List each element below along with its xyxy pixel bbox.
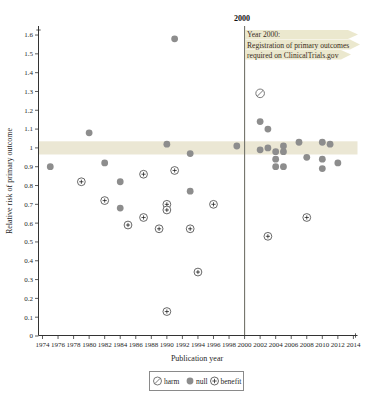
reference-band	[39, 141, 358, 154]
data-point-null	[265, 145, 272, 152]
data-point-null	[257, 146, 264, 153]
benefit-center-dot	[143, 174, 144, 175]
y-tick-label: 0.2	[24, 295, 33, 303]
data-point-null	[280, 148, 287, 155]
x-tick-label: 1974	[36, 341, 51, 349]
legend-null-label: null	[196, 377, 208, 386]
data-point-null	[171, 35, 178, 42]
data-point-null	[272, 163, 279, 170]
data-point-null	[233, 143, 240, 150]
annotation-line-1: Year 2000:	[247, 30, 280, 39]
data-point-null	[334, 160, 341, 167]
x-tick-label: 1990	[160, 341, 175, 349]
benefit-center-dot	[190, 228, 191, 229]
x-tick-label: 1980	[82, 341, 97, 349]
x-tick-label: 2008	[300, 341, 315, 349]
data-point-null	[272, 148, 279, 155]
legend-benefit-label: benefit	[221, 377, 243, 386]
data-point-null	[257, 118, 264, 125]
y-tick-label: 1.4	[24, 69, 33, 77]
scatter-plot-figure: 00.10.20.30.40.50.60.70.80.911.11.21.31.…	[0, 0, 370, 399]
data-point-null	[163, 141, 170, 148]
benefit-center-dot	[143, 217, 144, 218]
benefit-center-dot	[159, 228, 160, 229]
data-point-null	[117, 178, 124, 185]
data-point-null	[265, 126, 272, 133]
data-point-null	[117, 205, 124, 212]
y-tick-label: 0.9	[24, 163, 33, 171]
y-tick-label: 0.8	[24, 182, 33, 190]
x-tick-label: 1988	[144, 341, 159, 349]
y-axis-title: Relative risk of primary outcome	[5, 127, 14, 234]
x-tick-label: 2002	[253, 341, 268, 349]
data-point-null	[187, 150, 194, 157]
harm-legend-marker-icon	[154, 377, 162, 385]
y-tick-label: 1.2	[24, 107, 33, 115]
benefit-center-dot	[166, 209, 167, 210]
x-tick-label: 1976	[51, 341, 66, 349]
data-point-null	[319, 139, 326, 146]
benefit-center-dot	[267, 236, 268, 237]
data-point-null	[296, 139, 303, 146]
x-tick-label: 1998	[222, 341, 237, 349]
y-tick-label: 1.1	[24, 125, 33, 133]
benefit-center-dot	[127, 224, 128, 225]
data-point-null	[280, 163, 287, 170]
legend: harm null benefit	[150, 372, 244, 391]
y-tick-label: 1.6	[24, 31, 33, 39]
data-point-null	[47, 163, 54, 170]
x-tick-label: 2010	[315, 341, 330, 349]
benefit-center-dot	[306, 217, 307, 218]
benefit-center-dot	[213, 204, 214, 205]
x-tick-label: 2000	[238, 341, 253, 349]
data-point-null	[327, 141, 334, 148]
data-point-null	[319, 156, 326, 163]
data-point-null	[187, 188, 194, 195]
y-tick-label: 0	[30, 332, 34, 340]
legend-harm-label: harm	[164, 377, 180, 386]
plot-area: 00.10.20.30.40.50.60.70.80.911.11.21.31.…	[24, 26, 361, 349]
x-tick-label: 1984	[113, 341, 128, 349]
benefit-center-dot	[166, 311, 167, 312]
null-legend-marker-icon	[187, 378, 194, 385]
data-point-null	[86, 129, 93, 136]
data-point-null	[101, 160, 108, 167]
y-tick-label: 1.5	[24, 50, 33, 58]
x-tick-label: 2012	[331, 341, 346, 349]
annotation-line-2: Registration of primary outcomes	[247, 41, 349, 50]
x-tick-label: 1986	[129, 341, 144, 349]
benefit-center-dot	[197, 271, 198, 272]
y-tick-label: 0.6	[24, 220, 33, 228]
benefit-center-dot	[104, 200, 105, 201]
x-tick-label: 1978	[67, 341, 82, 349]
relative-risk-scatter-plot: 00.10.20.30.40.50.60.70.80.911.11.21.31.…	[0, 0, 370, 399]
benefit-center-dot	[174, 170, 175, 171]
annotation-line-3: required on ClinicalTrials.gov	[247, 51, 339, 60]
x-tick-label: 1996	[206, 341, 221, 349]
y-tick-label: 1.3	[24, 88, 33, 96]
event-line-label: 2000	[234, 14, 250, 23]
data-point-null	[319, 165, 326, 172]
y-tick-label: 0.3	[24, 276, 33, 284]
y-tick-label: 0.7	[24, 201, 33, 209]
data-point-null	[272, 156, 279, 163]
data-point-null	[303, 154, 310, 161]
x-tick-label: 1994	[191, 341, 206, 349]
x-tick-label: 2004	[269, 341, 284, 349]
x-tick-label: 2014	[346, 341, 361, 349]
x-tick-label: 2006	[284, 341, 299, 349]
benefit-center-dot	[81, 181, 82, 182]
y-tick-label: 0.1	[24, 314, 33, 322]
y-tick-label: 0.4	[24, 257, 33, 265]
x-axis-title: Publication year	[171, 354, 224, 363]
benefit-legend-marker-icon	[211, 377, 219, 385]
x-tick-label: 1982	[98, 341, 113, 349]
y-tick-label: 0.5	[24, 238, 33, 246]
y-tick-label: 1	[30, 144, 34, 152]
x-tick-label: 1992	[175, 341, 190, 349]
benefit-center-dot	[166, 204, 167, 205]
